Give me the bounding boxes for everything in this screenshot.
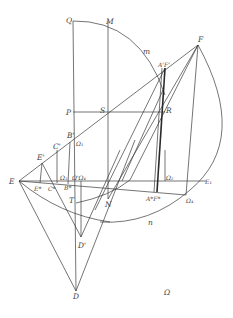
- label-AF-prime: A'F': [157, 61, 170, 68]
- labels: Q M m F A'F' P S R B' Ω₁ C' E' E Ω₃ Ω'Ω₄…: [8, 16, 212, 301]
- label-Omega2: Ω₂: [165, 174, 174, 181]
- label-m: m: [143, 47, 150, 56]
- geometry-figure: Q M m F A'F' P S R B' Ω₁ C' E' E Ω₃ Ω'Ω₄…: [0, 0, 233, 318]
- figure-svg: Q M m F A'F' P S R B' Ω₁ C' E' E Ω₃ Ω'Ω₄…: [0, 0, 233, 318]
- line-F-Omega4: [186, 45, 198, 195]
- label-Omega: Ω: [163, 288, 170, 297]
- label-E1: E₁: [204, 178, 212, 185]
- label-E: E: [8, 177, 15, 186]
- label-B-star: B*: [63, 184, 71, 191]
- label-T: T: [69, 196, 75, 205]
- label-R: R: [165, 106, 172, 115]
- label-S: S: [100, 106, 105, 115]
- label-D-prime: D': [77, 241, 86, 250]
- label-D: D: [72, 292, 79, 301]
- label-N: N: [104, 200, 112, 209]
- label-Omega-prime-Omega4: Ω'Ω₄: [71, 174, 87, 181]
- label-n: n: [148, 218, 153, 227]
- label-E-prime: E': [36, 153, 45, 162]
- label-C-prime: C': [53, 142, 61, 151]
- line-EPrime-Estar: [40, 163, 42, 183]
- label-E-star: E*: [33, 185, 41, 192]
- line-AF-left: [122, 90, 163, 181]
- label-AF-star: A*F*: [145, 195, 161, 202]
- label-B-prime: B': [66, 131, 75, 140]
- line-ED: [19, 181, 76, 291]
- label-Omega1-top: Ω₁: [75, 140, 83, 147]
- label-F: F: [197, 35, 204, 44]
- line-E-Omega4: [19, 181, 186, 195]
- label-Q: Q: [66, 16, 72, 25]
- line-Omega1-Bstar: [68, 142, 70, 184]
- label-Omega3: Ω₃: [59, 174, 68, 181]
- arc-TN: [76, 180, 130, 203]
- label-M: M: [105, 17, 114, 26]
- label-Omega4-bottom: Ω₄: [185, 197, 194, 204]
- label-C-star: C*: [48, 185, 56, 192]
- arc-m: [73, 21, 165, 95]
- line-D-up: [76, 140, 135, 291]
- line-QD: [73, 21, 76, 291]
- label-P: P: [65, 108, 72, 117]
